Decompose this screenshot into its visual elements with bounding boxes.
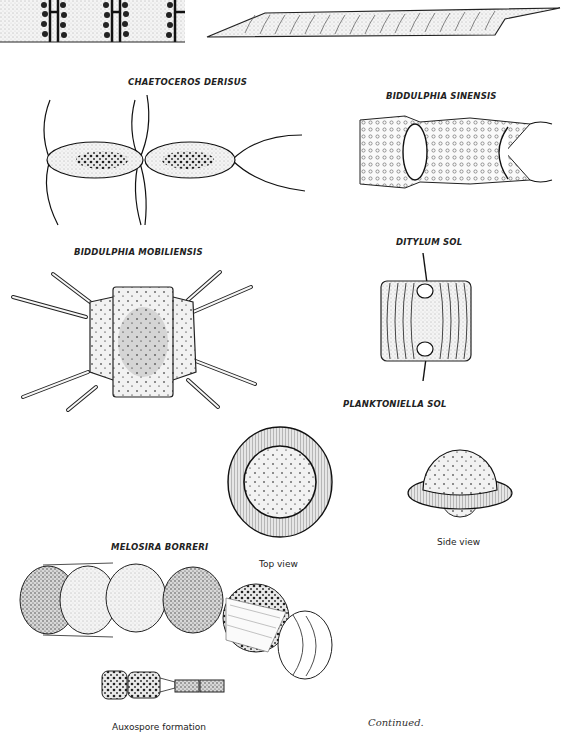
specimen-label-biddulphia-sinensis: BIDDULPHIA SINENSIS	[386, 91, 497, 101]
specimen-label-ditylum: DITYLUM SOL	[396, 237, 462, 247]
continued-note: Continued.	[368, 717, 424, 728]
specimen-label-planktoniella: PLANKTONIELLA SOL	[343, 399, 447, 409]
caption-auxospore-formation: Auxospore formation	[112, 722, 206, 732]
ditylum-illustration	[378, 253, 473, 383]
melosira-chain-illustration	[18, 560, 338, 670]
planktoniella-top-view-illustration	[225, 425, 335, 540]
specimen-label-biddulphia-mobiliensis: BIDDULPHIA MOBILIENSIS	[74, 247, 203, 257]
specimen-label-chaetoceros: CHAETOCEROS DERISUS	[128, 77, 247, 87]
specimen-label-melosira: MELOSIRA BORRERI	[111, 542, 208, 552]
caption-side-view: Side view	[437, 537, 480, 547]
top-elongate-illustration	[205, 5, 565, 40]
chaetoceros-illustration	[35, 100, 310, 230]
biddulphia-mobiliensis-illustration	[8, 262, 268, 412]
top-chain-illustration	[0, 0, 200, 50]
melosira-auxospore-illustration	[100, 670, 230, 700]
planktoniella-side-view-illustration	[405, 445, 515, 520]
biddulphia-sinensis-illustration	[360, 112, 560, 192]
